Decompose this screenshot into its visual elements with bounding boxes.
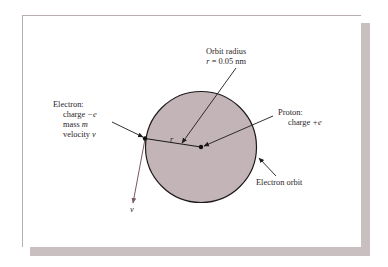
orbit-leader [259,158,276,176]
electron-charge: charge −e [53,110,97,120]
electron-label: Electron: charge −e mass m velocity v [53,100,97,140]
electron-velocity: velocity v [53,130,97,140]
velocity-symbol: v [130,205,134,215]
electron-leader [112,122,143,137]
orbit-radius-title: Orbit radius [206,47,246,57]
proton-label: Proton: charge +e [278,108,322,128]
orbit-radius-label: Orbit radius r = 0.05 nm [206,47,246,67]
electron-dot [143,136,147,140]
electron-title: Electron: [53,100,97,110]
electron-orbit-label: Electron orbit [256,178,302,188]
velocity-vector-arrow [133,139,145,203]
proton-dot [199,145,203,149]
electron-mass: mass m [53,120,97,130]
orbit-radius-value: r = 0.05 nm [206,57,246,67]
proton-charge: charge +e [278,118,322,128]
proton-title: Proton: [278,108,322,118]
radius-symbol: r [170,135,173,145]
